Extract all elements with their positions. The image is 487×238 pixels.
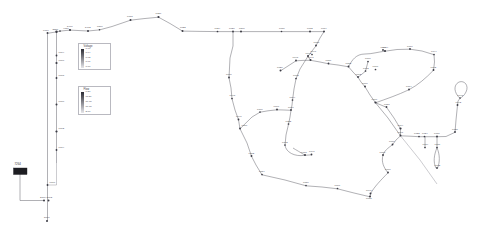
node-marker[interactable]	[357, 76, 359, 78]
node-marker[interactable]	[217, 31, 219, 33]
node-marker[interactable]	[259, 111, 261, 113]
node-marker[interactable]	[309, 31, 311, 33]
node-marker[interactable]	[99, 29, 101, 31]
network-node[interactable]: 6744	[431, 50, 437, 55]
node-marker[interactable]	[48, 200, 50, 202]
node-marker[interactable]	[457, 104, 459, 106]
network-node[interactable]: 6646	[236, 115, 242, 120]
network-node[interactable]: 6648	[230, 94, 236, 99]
node-marker[interactable]	[56, 149, 58, 151]
node-marker[interactable]	[56, 104, 58, 106]
node-marker[interactable]	[182, 30, 184, 32]
node-marker[interactable]	[408, 89, 410, 91]
network-node[interactable]: 6732	[435, 164, 441, 169]
node-marker[interactable]	[382, 154, 384, 156]
network-node[interactable]: 6734	[423, 143, 429, 148]
node-marker[interactable]	[392, 144, 394, 146]
network-node[interactable]: 6600	[55, 59, 64, 65]
node-marker[interactable]	[284, 144, 286, 146]
node-marker[interactable]	[365, 70, 367, 72]
node-marker[interactable]	[348, 66, 350, 68]
node-marker[interactable]	[399, 127, 401, 129]
node-marker[interactable]	[337, 188, 339, 190]
network-node[interactable]: 6674	[398, 124, 404, 129]
node-marker[interactable]	[238, 119, 240, 121]
node-marker[interactable]	[370, 193, 372, 195]
node-marker[interactable]	[305, 185, 307, 187]
node-marker[interactable]	[55, 62, 57, 64]
node-marker[interactable]	[386, 106, 388, 108]
network-node[interactable]: 6774	[406, 85, 412, 90]
node-marker[interactable]	[418, 136, 420, 138]
node-marker[interactable]	[261, 174, 263, 176]
network-node[interactable]: 6772	[431, 66, 437, 71]
node-marker[interactable]	[424, 136, 426, 138]
node-marker[interactable]	[288, 123, 290, 125]
node-marker[interactable]	[87, 30, 89, 32]
network-node[interactable]: 6638	[366, 196, 372, 200]
node-marker[interactable]	[433, 69, 435, 71]
node-marker[interactable]	[436, 147, 438, 149]
network-node[interactable]: 5606	[44, 216, 50, 222]
node-marker[interactable]	[310, 59, 312, 61]
node-marker[interactable]	[55, 31, 57, 33]
node-marker[interactable]	[384, 50, 386, 52]
node-marker[interactable]	[409, 48, 411, 50]
network-node[interactable]: 6670	[389, 140, 395, 145]
network-node[interactable]: 6722	[286, 120, 292, 125]
node-marker[interactable]	[367, 61, 369, 63]
node-marker[interactable]	[424, 147, 426, 149]
network-node[interactable]: 6736	[435, 143, 441, 148]
network-node[interactable]: 6702	[363, 67, 369, 72]
node-marker[interactable]	[47, 32, 49, 34]
node-marker[interactable]	[315, 45, 317, 47]
node-marker[interactable]	[304, 154, 306, 156]
node-marker[interactable]	[433, 54, 435, 56]
node-marker[interactable]	[311, 154, 313, 156]
network-node[interactable]: 6604	[56, 51, 65, 56]
network-node[interactable]: 6666	[385, 168, 391, 173]
node-marker[interactable]	[157, 16, 159, 18]
node-marker[interactable]	[43, 200, 45, 202]
node-marker[interactable]	[239, 128, 241, 130]
node-marker[interactable]	[328, 63, 330, 65]
node-marker[interactable]	[251, 155, 253, 157]
network-node[interactable]: 6651	[384, 103, 390, 108]
network-node[interactable]: 6038	[314, 41, 320, 46]
network-node[interactable]: 6652	[249, 152, 255, 157]
node-marker[interactable]	[454, 131, 456, 133]
node-marker[interactable]	[281, 31, 283, 33]
node-marker[interactable]	[56, 77, 58, 79]
network-node[interactable]: 6670	[372, 98, 378, 103]
network-node[interactable]: 6720	[277, 66, 283, 71]
node-marker[interactable]	[232, 31, 234, 33]
node-marker[interactable]	[55, 130, 57, 132]
node-marker[interactable]	[228, 77, 230, 79]
node-marker[interactable]	[47, 184, 49, 186]
network-node[interactable]: 6602	[356, 73, 362, 78]
node-marker[interactable]	[240, 31, 242, 33]
node-marker[interactable]	[295, 78, 297, 80]
network-node[interactable]: 6610	[56, 100, 65, 105]
network-node[interactable]: 6728	[452, 128, 458, 133]
network-node[interactable]: 6600	[365, 57, 371, 62]
node-marker[interactable]	[400, 135, 402, 137]
network-node[interactable]: 6748	[458, 94, 464, 99]
node-marker[interactable]	[276, 109, 278, 111]
node-marker[interactable]	[290, 109, 292, 111]
node-marker[interactable]	[292, 99, 294, 101]
node-marker[interactable]	[387, 172, 389, 174]
node-marker[interactable]	[374, 101, 376, 103]
node-marker[interactable]	[231, 98, 233, 100]
network-node[interactable]: 6668	[380, 151, 386, 156]
node-marker[interactable]	[459, 97, 461, 99]
node-marker[interactable]	[56, 55, 58, 57]
node-marker[interactable]	[375, 69, 377, 71]
network-node[interactable]: 6692	[293, 74, 299, 79]
node-marker[interactable]	[59, 30, 61, 32]
node-marker[interactable]	[280, 70, 282, 72]
network-node[interactable]: 6776	[373, 65, 379, 70]
network-node[interactable]: 6047	[311, 50, 317, 55]
network-node[interactable]: 6614	[56, 146, 65, 151]
node-marker[interactable]	[436, 136, 438, 138]
